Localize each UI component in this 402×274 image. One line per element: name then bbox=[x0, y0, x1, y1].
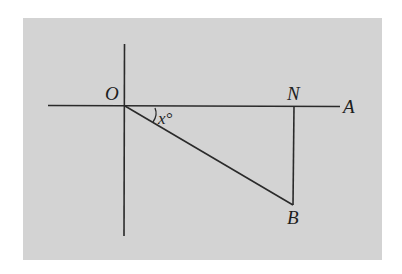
point-label-b: B bbox=[287, 207, 299, 228]
point-label-n: N bbox=[286, 83, 301, 104]
point-label-o: O bbox=[105, 83, 119, 104]
point-label-a: A bbox=[341, 96, 355, 117]
horizontal-axis-line bbox=[48, 106, 340, 107]
segment-nb bbox=[293, 106, 294, 205]
geometry-diagram: O N A B x° bbox=[0, 0, 402, 274]
diagram-background bbox=[23, 18, 382, 260]
vertical-axis-line bbox=[124, 44, 125, 236]
angle-label: x° bbox=[157, 109, 173, 128]
